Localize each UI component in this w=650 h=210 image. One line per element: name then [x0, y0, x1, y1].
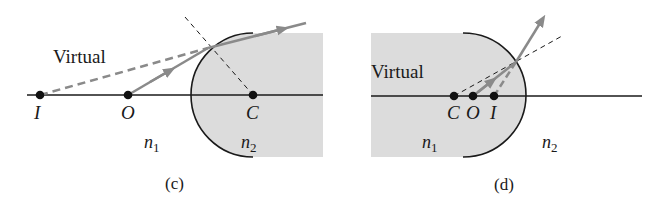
label-n1: n1: [422, 133, 438, 154]
label-n2: n2: [542, 133, 558, 154]
panel-d: [371, 20, 642, 157]
label-C: C: [246, 103, 259, 122]
label-O: O: [466, 103, 480, 122]
point-O: [469, 92, 478, 101]
point-C: [450, 92, 459, 101]
point-C: [249, 91, 258, 100]
incident-ray-arrow: [150, 71, 170, 83]
label-n1: n1: [144, 133, 160, 154]
point-I: [490, 92, 499, 101]
refraction-diagram: [0, 0, 650, 210]
point-O: [124, 91, 133, 100]
label-C: C: [447, 103, 460, 122]
caption-c: (c): [165, 175, 184, 192]
label-I: I: [490, 103, 496, 122]
virtual-label: Virtual: [53, 47, 106, 66]
medium-n1-region: [371, 33, 526, 157]
label-I: I: [34, 103, 40, 122]
caption-d: (d): [494, 176, 514, 193]
point-I: [36, 91, 45, 100]
label-O: O: [121, 103, 135, 122]
panel-c: [27, 17, 323, 157]
virtual-label: Virtual: [371, 62, 424, 81]
label-n2: n2: [241, 133, 257, 154]
refracted-ray: [516, 20, 542, 62]
